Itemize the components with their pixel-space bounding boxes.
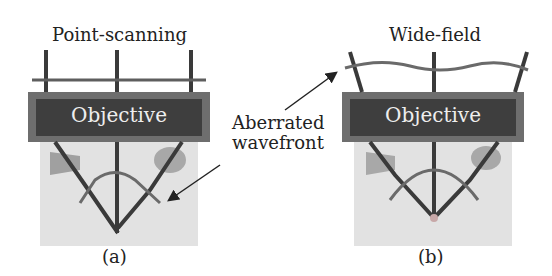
panel-b-aberrated-wavefront [345, 62, 528, 70]
diagram-graphics [0, 0, 552, 276]
